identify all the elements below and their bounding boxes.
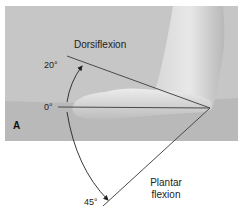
plantar-label-line2: flexion: [146, 189, 186, 200]
dorsiflexion-line: [67, 56, 210, 108]
angle-45-label: 45°: [84, 197, 98, 207]
angle-20-label: 20°: [44, 60, 58, 70]
angle-0-label: 0°: [44, 102, 53, 112]
plantar-flexion-arrow: [67, 112, 108, 200]
panel-label: A: [13, 120, 20, 131]
dorsiflexion-arrow: [67, 66, 82, 102]
angle-overlay: [0, 0, 242, 221]
plantar-label-line1: Plantar: [146, 177, 186, 188]
dorsiflexion-label: Dorsiflexion: [74, 39, 126, 50]
neutral-line: [58, 107, 210, 108]
